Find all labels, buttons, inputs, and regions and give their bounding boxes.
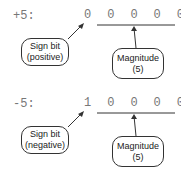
sign-bit-callout: Sign bit (positive): [21, 38, 69, 66]
callout-line1: Magnitude: [113, 53, 163, 64]
callout-line2: (positive): [22, 52, 68, 63]
sign-bit-callout: Sign bit (negative): [21, 126, 69, 154]
callout-line2: (negative): [22, 140, 68, 151]
value-label: +5:: [13, 9, 35, 23]
binary-bits: 0 0 0 0 0 1 0 1: [84, 8, 181, 22]
callout-line1: Magnitude: [113, 141, 163, 152]
callout-line1: Sign bit: [22, 41, 68, 52]
negative-panel: -5: 1 0 0 0 0 1 0 1 Sign bit (negative) …: [0, 88, 181, 178]
callout-line1: Sign bit: [22, 129, 68, 140]
value-label: -5:: [13, 97, 35, 111]
positive-panel: +5: 0 0 0 0 0 1 0 1 Sign bit (positive) …: [0, 0, 181, 90]
magnitude-callout: Magnitude (5): [112, 48, 164, 79]
callout-line2: (5): [113, 152, 163, 163]
magnitude-callout: Magnitude (5): [112, 136, 164, 167]
binary-bits: 1 0 0 0 0 1 0 1: [84, 96, 181, 110]
callout-line2: (5): [113, 64, 163, 75]
